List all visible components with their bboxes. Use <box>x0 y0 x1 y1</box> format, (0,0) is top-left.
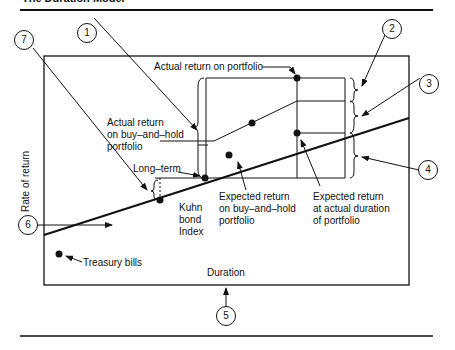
label-long-term: Long–term <box>133 163 181 175</box>
callout-7: 7 <box>14 30 34 50</box>
callout-3: 3 <box>419 74 439 94</box>
callout-2: 2 <box>382 19 402 39</box>
label-expected-dur-1: Expected return <box>313 191 384 203</box>
callout-5: 5 <box>216 306 236 326</box>
label-treasury-bills: Treasury bills <box>83 257 142 269</box>
label-expected-bh-3: portfolio <box>219 215 255 227</box>
y-axis-label: Rate of return <box>20 151 31 212</box>
label-kuhn-3: Index <box>179 226 203 238</box>
label-expected-bh-2: on buy–and–hold <box>219 203 296 215</box>
label-actual-bh-3: portfolio <box>107 141 143 153</box>
label-expected-bh-1: Expected return <box>219 191 290 203</box>
callout-6: 6 <box>18 215 38 235</box>
label-actual-return-portfolio: Actual return on portfolio <box>154 61 263 73</box>
label-kuhn-1: Kuhn <box>179 202 202 214</box>
label-expected-dur-3: of portfolio <box>313 215 360 227</box>
label-actual-bh-2: on buy–and–hold <box>107 129 184 141</box>
diagram-canvas <box>0 0 455 350</box>
label-kuhn-2: bond <box>179 214 201 226</box>
callout-4: 4 <box>418 160 438 180</box>
x-axis-label: Duration <box>207 267 245 279</box>
callout-1: 1 <box>77 23 97 43</box>
duration-model-figure: The Duration Model <box>0 0 455 350</box>
label-actual-bh-1: Actual return <box>107 117 164 129</box>
label-expected-dur-2: at actual duration <box>313 203 390 215</box>
